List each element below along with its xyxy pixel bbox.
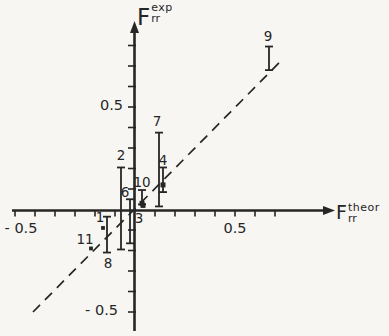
y-axis-label-scripts: exp rr xyxy=(151,2,173,24)
marker-dot-1 xyxy=(101,226,105,230)
point-label-3: 3 xyxy=(135,210,144,226)
y-tick-label-0.5: 0.5 xyxy=(100,97,123,113)
point-label-10: 10 xyxy=(133,174,150,190)
x-axis-label-scripts: theor rr xyxy=(348,202,380,224)
y-axis-label-sub: rr xyxy=(151,13,173,24)
scatter-plot-figure: - 0.50.50.5- 0.5123467891011 F exp rr F … xyxy=(0,0,389,336)
marker-square-4 xyxy=(161,182,166,187)
marker-square-10 xyxy=(140,201,145,206)
y-axis-label-base: F xyxy=(137,5,150,29)
marker-dot-11 xyxy=(89,247,93,251)
x-axis-arrowhead xyxy=(323,206,335,215)
point-label-8: 8 xyxy=(104,255,113,271)
x-tick-label--0.5: - 0.5 xyxy=(5,220,38,236)
point-label-2: 2 xyxy=(117,147,126,163)
y-axis-label: F exp rr xyxy=(137,5,173,29)
y-tick-label--0.5: - 0.5 xyxy=(85,302,118,318)
x-axis-label-base: F xyxy=(336,202,347,222)
x-tick-label-0.5: 0.5 xyxy=(223,220,246,236)
identity-dashed-line xyxy=(33,60,282,312)
x-axis-label: F theor rr xyxy=(336,202,380,224)
point-label-6: 6 xyxy=(121,184,130,200)
point-label-7: 7 xyxy=(153,113,162,129)
point-label-9: 9 xyxy=(264,28,273,44)
plot-canvas: - 0.50.50.5- 0.5123467891011 xyxy=(0,0,389,336)
point-label-4: 4 xyxy=(159,152,168,168)
point-label-11: 11 xyxy=(76,231,93,247)
x-axis-label-sub: rr xyxy=(348,213,380,224)
